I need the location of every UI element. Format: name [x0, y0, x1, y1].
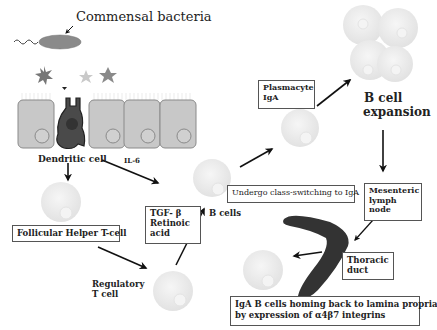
- b-cell-icon: [193, 159, 231, 197]
- arrow-mln-to-duct: [355, 220, 373, 240]
- arrow-plasmacyte-to-expansion: [317, 80, 350, 106]
- regulatory-t-cell-icon: [153, 271, 193, 311]
- follicular-helper-t-cell-icon: [41, 182, 81, 222]
- epithelial-cell: [18, 100, 54, 148]
- antigen-star-light-icon: [79, 70, 93, 83]
- bacteria-pointer-arrow: [66, 26, 73, 33]
- b-cell-expansion-cluster-icon: [343, 5, 418, 82]
- dendritic-cell-icon: [57, 98, 85, 149]
- iga-homing-box: IgA B cells homing back to lamina propri…: [230, 296, 420, 326]
- microvilli: [22, 93, 190, 100]
- thoracic-duct-box: Thoracic duct: [342, 252, 394, 280]
- arrow-bcell-to-plasmacyte: [240, 149, 272, 167]
- epithelial-cell: [89, 100, 125, 148]
- b-cell-expansion-label: B cell expansion: [364, 92, 431, 120]
- follicular-helper-t-cell-box: Follicular Helper T-cell: [12, 225, 120, 242]
- antigen-star-dark-icon: [99, 67, 117, 83]
- arrow-tfh-to-treg: [98, 247, 146, 268]
- plasmacyte-iga-box: Plasmacyte IgA: [258, 80, 315, 109]
- tgf-retinoic-acid-box: TGF- β Retinoic acid: [145, 206, 201, 244]
- mesenteric-lymph-node-box: Mesenteric lymph node: [364, 183, 422, 221]
- thoracic-duct-icon: [283, 216, 349, 298]
- commensal-bacteria-label: Commensal bacteria: [76, 10, 212, 25]
- il6-label: IL-6: [124, 157, 140, 165]
- bacteria-icon: [14, 35, 81, 49]
- epithelial-cell: [160, 100, 196, 148]
- b-cells-label: B cells: [209, 209, 241, 219]
- class-switching-box: Undergo class-switching to IgA: [227, 185, 355, 203]
- homing-iga-b-cell-icon: [243, 250, 283, 290]
- regulatory-t-cell-label: Regulatory T cell: [92, 280, 144, 300]
- epithelial-cell: [124, 100, 160, 148]
- arrow-duct-to-homing: [294, 252, 322, 256]
- antigen-burst-icon: [35, 66, 53, 85]
- dendritic-cell-label: Dendritic cell: [38, 154, 107, 164]
- antigen-dot-icon: [62, 87, 67, 90]
- plasmacyte-cell-icon: [281, 109, 319, 147]
